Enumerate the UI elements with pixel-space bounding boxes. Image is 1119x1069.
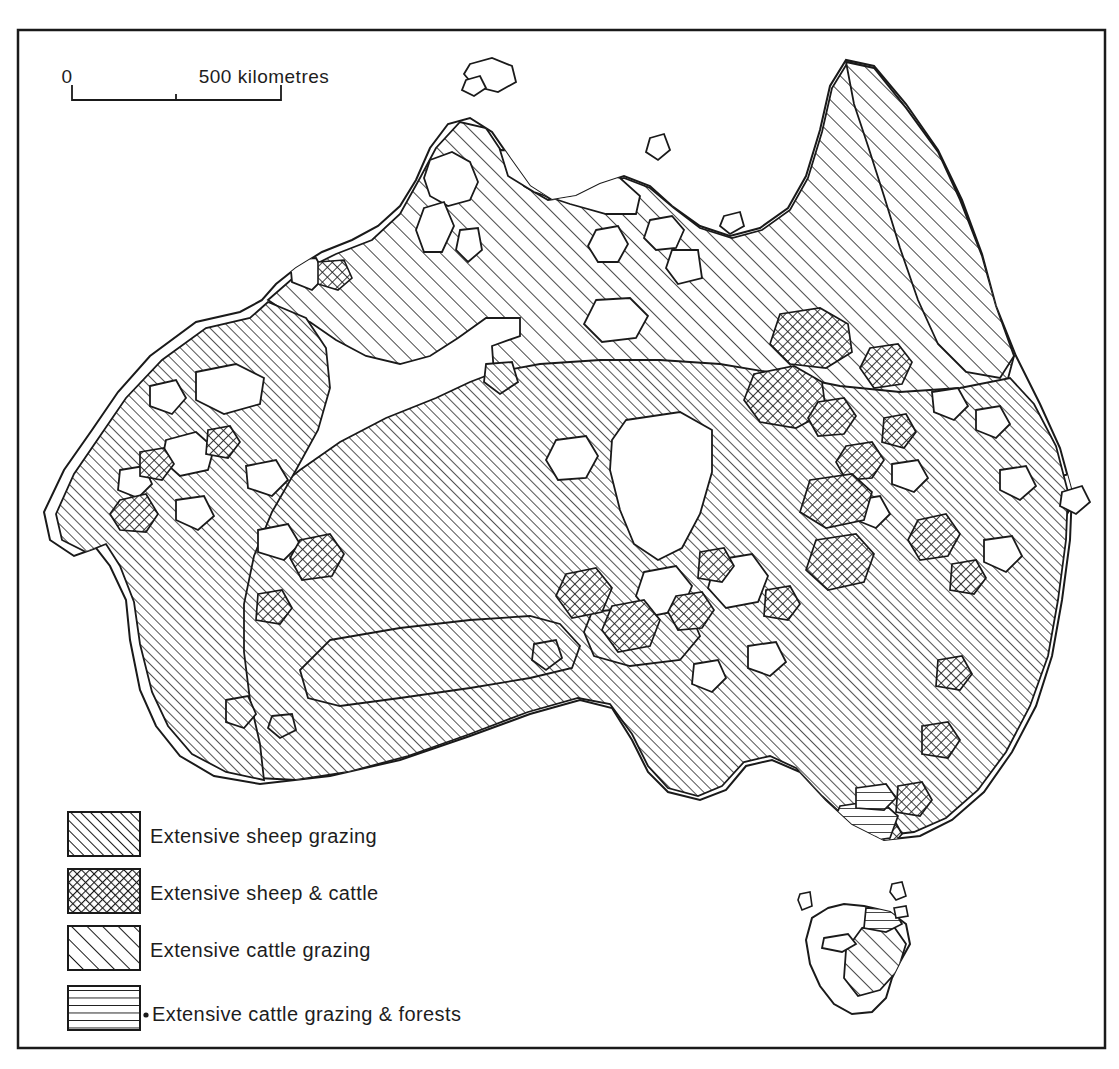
bass-strait-islet: [798, 892, 812, 910]
legend-swatch-sheep-grazing: [68, 812, 140, 856]
legend-leading-dot: [143, 1012, 148, 1017]
legend-label-sheep-and-cattle: Extensive sheep & cattle: [150, 882, 379, 904]
legend-label-sheep-grazing: Extensive sheep grazing: [150, 825, 377, 847]
legend-label-cattle-grazing: Extensive cattle grazing: [150, 939, 371, 961]
legend-item-cattle-and-forests[interactable]: Extensive cattle grazing & forests: [68, 986, 461, 1030]
scale-bar-end-label: 500 kilometres: [199, 66, 330, 87]
bass-strait-islet: [890, 882, 906, 900]
legend-swatch-sheep-and-cattle: [68, 869, 140, 913]
scale-bar: 0 500 kilometres: [61, 66, 329, 100]
legend-item-cattle-grazing[interactable]: Extensive cattle grazing: [68, 926, 371, 970]
legend-item-sheep-grazing[interactable]: Extensive sheep grazing: [68, 812, 377, 856]
legend-swatch-cattle-and-forests: [68, 986, 140, 1030]
legend-label-cattle-and-forests: Extensive cattle grazing & forests: [152, 1003, 461, 1025]
map-figure: 0 500 kilometres: [0, 0, 1119, 1069]
legend-swatch-cattle-grazing: [68, 926, 140, 970]
australia-map: [44, 58, 1090, 1014]
scale-bar-start-label: 0: [61, 66, 72, 87]
legend: Extensive sheep grazing Extensive sheep …: [68, 812, 461, 1030]
legend-item-sheep-and-cattle[interactable]: Extensive sheep & cattle: [68, 869, 379, 913]
bass-strait-islet: [894, 906, 908, 918]
map-canvas: 0 500 kilometres: [0, 0, 1119, 1069]
tasmania: [798, 882, 910, 1014]
